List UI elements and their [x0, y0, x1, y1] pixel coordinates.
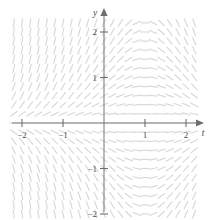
slope-segment: [76, 147, 82, 154]
slope-segment: [191, 93, 198, 99]
slope-segment: [36, 146, 41, 154]
slope-segment: [190, 139, 198, 143]
slope-segment: [78, 55, 81, 63]
slope-segment: [70, 28, 72, 37]
slope-segment: [44, 138, 50, 145]
slope-segment: [62, 182, 65, 191]
slope-segment: [192, 37, 195, 45]
slope-segment: [132, 86, 141, 88]
slope-segment: [19, 101, 24, 108]
slope-segment: [132, 77, 141, 79]
slope-segment: [21, 191, 23, 200]
slope-segment: [54, 191, 56, 200]
slope-segment: [84, 93, 91, 99]
slope-segment: [166, 157, 174, 161]
slope-segment: [43, 112, 51, 116]
slope-segment: [13, 191, 15, 200]
slope-segment: [77, 74, 81, 82]
y-tick-label: −1: [87, 164, 97, 174]
slope-segment: [20, 82, 23, 90]
slope-segment: [125, 38, 132, 44]
slope-segment: [38, 37, 40, 46]
slope-segment: [61, 155, 65, 163]
slope-segment: [117, 166, 125, 171]
slope-segment: [11, 101, 16, 108]
slope-segment: [125, 175, 133, 179]
slope-segment: [37, 82, 41, 90]
slope-segment: [38, 210, 40, 219]
slope-segment: [108, 148, 116, 152]
slope-segment: [117, 175, 124, 181]
slope-segment: [192, 174, 197, 182]
slope-segment: [149, 194, 157, 197]
slope-segment: [13, 73, 15, 82]
slope-segment: [167, 28, 172, 35]
slope-segment: [192, 192, 196, 200]
slope-segment: [26, 112, 34, 117]
slope-segment: [29, 191, 31, 200]
slope-segment: [38, 200, 40, 209]
slope-segment: [175, 192, 180, 199]
slope-segment: [94, 192, 98, 200]
slope-segment: [61, 83, 65, 91]
slope-segment: [118, 201, 124, 208]
slope-segment: [183, 74, 189, 81]
slope-segment: [12, 155, 15, 163]
slope-segment: [157, 167, 165, 171]
slope-segment: [78, 210, 80, 219]
slope-segment: [192, 65, 197, 73]
slope-segment: [21, 55, 23, 64]
slope-segment: [61, 164, 65, 172]
slope-segment: [21, 37, 22, 46]
slope-segment: [191, 156, 197, 163]
slope-segment: [69, 156, 74, 164]
slope-segment: [20, 155, 23, 163]
slope-segment: [37, 73, 40, 82]
slope-segment: [83, 113, 92, 116]
slope-segment: [158, 193, 165, 198]
slope-segment: [92, 139, 100, 143]
slope-segment: [12, 146, 16, 154]
slope-segment: [110, 28, 114, 36]
slope-segment: [157, 132, 166, 133]
slope-segment: [21, 18, 22, 27]
slope-segment: [110, 192, 115, 199]
slope-segment: [54, 18, 56, 27]
slope-segment: [84, 147, 91, 153]
slope-segment: [29, 210, 30, 219]
slope-segment: [85, 174, 89, 182]
slope-segment: [165, 113, 174, 114]
slope-segment: [184, 183, 189, 191]
slope-segment: [109, 65, 115, 72]
slope-segment: [117, 56, 124, 62]
slope-segment: [13, 200, 14, 209]
slope-segment: [67, 112, 75, 115]
slope-segment: [125, 29, 132, 35]
slope-segment: [29, 155, 32, 163]
slope-segment: [173, 131, 182, 133]
slope-segment: [108, 131, 117, 133]
slope-segment: [53, 64, 56, 73]
x-tick-label: 2: [184, 130, 189, 140]
slope-segment: [29, 28, 30, 37]
slope-segment: [157, 175, 165, 179]
slope-segment: [149, 150, 158, 151]
x-tick-label: 1: [143, 130, 148, 140]
slope-segment: [116, 149, 124, 152]
slope-segment: [21, 64, 23, 73]
slope-segment: [27, 138, 33, 145]
slope-segment: [132, 95, 141, 96]
slope-segment: [13, 164, 15, 173]
slope-segment: [83, 131, 92, 134]
slope-segment: [167, 201, 173, 208]
slope-segment: [86, 183, 90, 191]
slope-segment: [157, 76, 165, 80]
slope-segment: [125, 57, 133, 62]
slope-segment: [21, 200, 22, 209]
slope-segment: [54, 55, 57, 64]
slope-segment: [110, 47, 115, 54]
slope-segment: [37, 46, 39, 55]
slope-segment: [85, 64, 89, 72]
slope-segment: [182, 103, 190, 107]
slope-segment: [77, 165, 81, 173]
